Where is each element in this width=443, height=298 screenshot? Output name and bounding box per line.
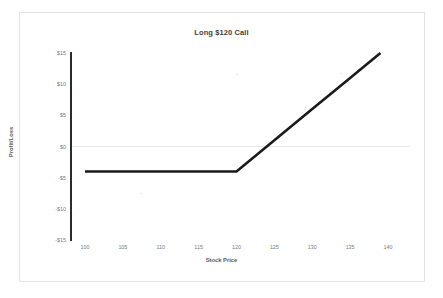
y-tick-label: -$10	[38, 206, 66, 212]
x-tick-label: 125	[270, 244, 279, 250]
y-axis-title: Profit/Loss	[8, 112, 14, 172]
y-tick-label: $0	[38, 144, 66, 150]
x-tick-label: 115	[194, 244, 203, 250]
x-axis-title: Stock Price	[0, 257, 443, 263]
y-axis-line	[70, 52, 72, 241]
y-tick-label: $5	[38, 112, 66, 118]
y-tick-label: $10	[38, 81, 66, 87]
y-tick-label: -$5	[38, 175, 66, 181]
scan-speckle	[345, 85, 346, 86]
x-tick-label: 110	[156, 244, 165, 250]
x-tick-label: 130	[308, 244, 317, 250]
zero-gridline	[70, 146, 410, 147]
x-tick-label: 135	[346, 244, 355, 250]
scan-speckle	[236, 74, 238, 75]
y-tick-label: $15	[38, 50, 66, 56]
scan-speckle	[340, 73, 342, 74]
x-tick-label: 140	[384, 244, 393, 250]
chart-title: Long $120 Call	[0, 28, 443, 37]
x-tick-label: 120	[232, 244, 241, 250]
x-tick-label: 105	[118, 244, 127, 250]
payoff-chart: Long $120 Call $15$10$5$0-$5-$10-$15 100…	[0, 0, 443, 298]
y-tick-label: -$15	[38, 237, 66, 243]
x-axis-tick-labels: 100105110115120125130135140	[0, 244, 443, 254]
scan-speckle	[140, 193, 142, 194]
x-tick-label: 100	[81, 244, 90, 250]
